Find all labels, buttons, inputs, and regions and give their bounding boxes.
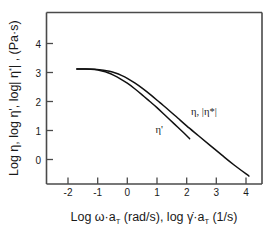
- y-ticks: [47, 44, 54, 160]
- x-axis-title-part3: (rad/s), log: [120, 210, 187, 224]
- x-tick-label-2: 2: [184, 187, 190, 198]
- y-tick-label-4: 4: [35, 39, 41, 50]
- y-tick-labels: 4 3 2 1 0: [35, 39, 41, 166]
- x-axis-title-part1: Log ω·a: [71, 210, 116, 224]
- eta-prime-annotation: η': [156, 124, 163, 135]
- data-curves: [77, 69, 249, 176]
- x-axis-title: Log ω·aT (rad/s), log γ̇·aT (1/s): [71, 210, 238, 226]
- eta-eta-star-annotation: η, |η*|: [191, 106, 217, 117]
- x-tick-label--1: -1: [93, 187, 102, 198]
- x-axis-title-part7: (1/s): [209, 210, 237, 224]
- x-tick-labels: -2 -1 0 1 2 3 4: [64, 187, 250, 198]
- y-axis-title-part1: Log η, log η', log| η: [7, 71, 21, 176]
- x-tick-label-3: 3: [214, 187, 220, 198]
- x-axis-title-part5: ·a: [193, 210, 204, 224]
- y-tick-label-1: 1: [35, 126, 41, 137]
- curve-eta-eta-star: [77, 69, 249, 176]
- curve-annotations: η, |η*| η': [156, 106, 217, 136]
- x-ticks: [68, 178, 246, 185]
- x-tick-label-1: 1: [154, 187, 160, 198]
- chart-figure: 4 3 2 1 0 -2 -1 0 1 2 3 4: [0, 0, 276, 240]
- y-tick-label-2: 2: [35, 97, 41, 108]
- y-axis-title-part3: | , (Pa·s): [7, 20, 21, 68]
- curve-eta-prime: [77, 69, 190, 139]
- y-tick-label-3: 3: [35, 68, 41, 79]
- y-axis-title: Log η, log η', log| η*| , (Pa·s): [7, 20, 21, 176]
- y-tick-label-0: 0: [35, 155, 41, 166]
- chart-svg: 4 3 2 1 0 -2 -1 0 1 2 3 4: [0, 0, 276, 240]
- x-tick-label--2: -2: [64, 187, 73, 198]
- x-tick-label-0: 0: [125, 187, 131, 198]
- x-tick-label-4: 4: [243, 187, 249, 198]
